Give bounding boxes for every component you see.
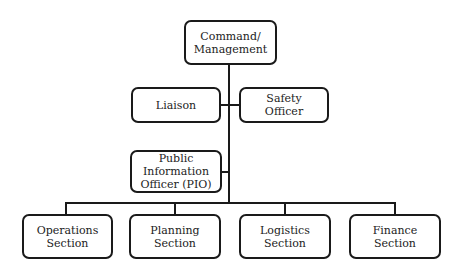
logistics-section-label: Logistics Section bbox=[260, 224, 310, 250]
safety-connector bbox=[229, 104, 239, 106]
planning-section-box: Planning Section bbox=[129, 214, 221, 259]
finance-section-label: Finance Section bbox=[373, 224, 418, 250]
liaison-label: Liaison bbox=[156, 99, 196, 112]
section-bus-line bbox=[65, 202, 396, 204]
pio-box: Public Information Officer (PIO) bbox=[130, 150, 222, 193]
pio-label: Public Information Officer (PIO) bbox=[140, 152, 211, 191]
main-trunk-line bbox=[228, 64, 230, 204]
safety-officer-label: Safety Officer bbox=[265, 92, 303, 118]
command-management-label: Command/ Management bbox=[194, 30, 267, 56]
finance-drop-line bbox=[394, 202, 396, 214]
planning-section-label: Planning Section bbox=[150, 224, 199, 250]
liaison-connector bbox=[220, 104, 229, 106]
operations-section-box: Operations Section bbox=[22, 214, 113, 259]
command-management-box: Command/ Management bbox=[184, 20, 277, 65]
safety-officer-box: Safety Officer bbox=[239, 87, 329, 123]
operations-section-label: Operations Section bbox=[37, 224, 99, 250]
pio-connector bbox=[221, 171, 229, 173]
liaison-box: Liaison bbox=[131, 87, 221, 123]
operations-drop-line bbox=[65, 202, 67, 214]
finance-section-box: Finance Section bbox=[349, 214, 441, 259]
logistics-section-box: Logistics Section bbox=[239, 214, 331, 259]
planning-drop-line bbox=[174, 202, 176, 214]
logistics-drop-line bbox=[284, 202, 286, 214]
